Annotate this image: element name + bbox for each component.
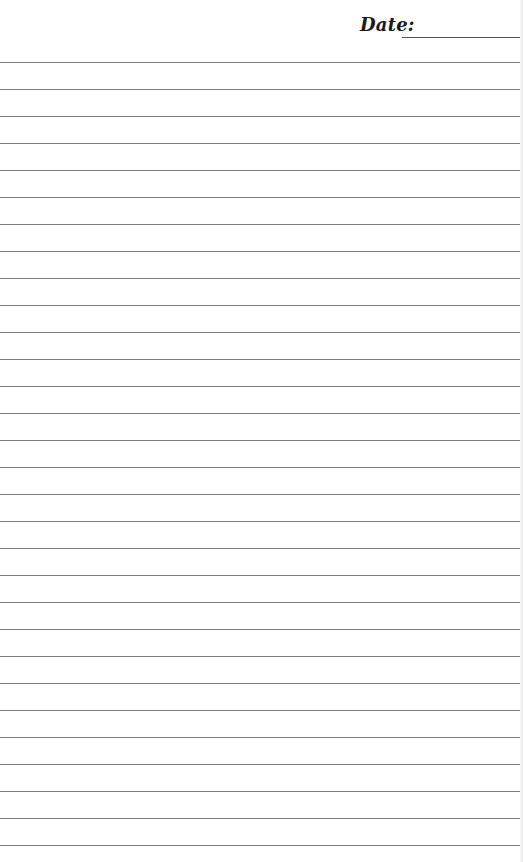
ruled-line [0, 224, 520, 225]
ruled-line [0, 494, 520, 495]
ruled-line [0, 197, 520, 198]
ruled-line [0, 548, 520, 549]
ruled-line [0, 521, 520, 522]
ruled-line [0, 737, 520, 738]
ruled-line [0, 629, 520, 630]
ruled-line [0, 251, 520, 252]
date-label: Date: [360, 14, 415, 35]
ruled-line [0, 278, 520, 279]
ruled-line [0, 332, 520, 333]
ruled-line [0, 575, 520, 576]
ruled-line [0, 602, 520, 603]
ruled-line [0, 791, 520, 792]
ruled-line [0, 170, 520, 171]
ruled-line [0, 386, 520, 387]
ruled-line [0, 116, 520, 117]
ruled-line [0, 305, 520, 306]
ruled-line [0, 143, 520, 144]
ruled-line [0, 710, 520, 711]
ruled-line [0, 656, 520, 657]
lined-paper-page: Date: [0, 0, 523, 862]
ruled-line [0, 683, 520, 684]
ruled-line [0, 89, 520, 90]
ruled-line [0, 440, 520, 441]
ruled-line [0, 845, 520, 846]
ruled-line [0, 413, 520, 414]
ruled-line [0, 818, 520, 819]
ruled-line [0, 467, 520, 468]
date-field-line[interactable] [402, 37, 520, 38]
ruled-line [0, 62, 520, 63]
ruled-line [0, 359, 520, 360]
ruled-line [0, 764, 520, 765]
